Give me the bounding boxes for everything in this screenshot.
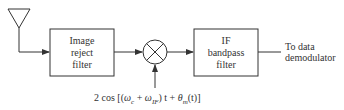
output-label: To data demodulator [285,41,336,63]
local-oscillator-label: 2 cos [(ωc + ωIF) t + θm(t)] [94,92,201,106]
if-bandpass-filter-label: IF bandpass filter [194,35,258,71]
image-reject-filter-label: Image reject filter [50,35,114,71]
superheterodyne-receiver-diagram: Image reject filter IF bandpass filter T… [0,0,344,110]
mixer-icon [143,40,167,64]
antenna-icon [8,9,49,52]
